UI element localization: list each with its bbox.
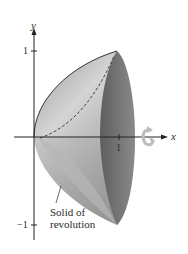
y-axis-label: y	[31, 20, 36, 31]
rotation-arrow-icon	[143, 126, 153, 145]
solid-of-revolution-caption: Solid of revolution	[50, 206, 95, 230]
caption-line-1: Solid of	[50, 206, 95, 218]
y-tick-label-neg1: −1	[17, 220, 28, 230]
caption-leader-line	[56, 186, 61, 203]
x-axis-label: x	[171, 131, 176, 142]
y-tick-label-1: 1	[23, 46, 28, 56]
x-tick-label-1: 1	[116, 143, 121, 153]
x-axis-arrowhead	[161, 135, 168, 140]
caption-line-2: revolution	[50, 218, 95, 230]
solid-of-revolution-figure: y x 1 −1 1 Solid of revolution	[0, 0, 188, 254]
